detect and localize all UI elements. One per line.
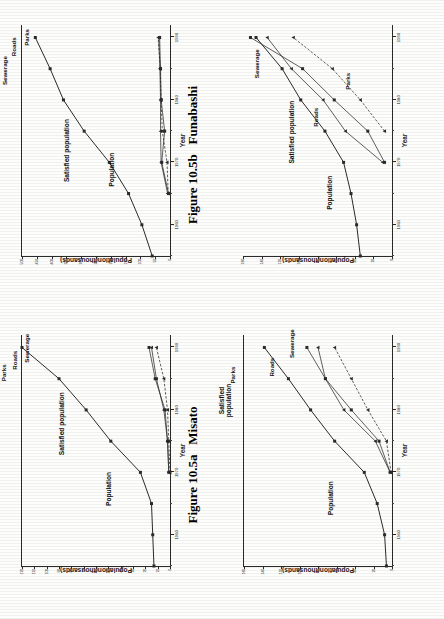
annotation-parks: Parks bbox=[344, 72, 351, 89]
series-line-parks bbox=[307, 347, 390, 472]
y-tick-label: 40 bbox=[353, 566, 357, 573]
x-tick-label: 1960 bbox=[392, 530, 401, 539]
figure-tama: Population(thousands) Year Population Sa… bbox=[222, 310, 444, 619]
y-tick-label: 0 bbox=[168, 566, 172, 571]
y-tick-label: 0 bbox=[168, 256, 172, 261]
data-point-marker bbox=[265, 35, 268, 39]
data-point-marker bbox=[58, 377, 61, 380]
y-tick-label: 450 bbox=[35, 256, 39, 264]
x-tick-minor bbox=[392, 67, 394, 68]
y-tick-label: 50 bbox=[106, 566, 110, 573]
x-tick-minor bbox=[170, 130, 172, 131]
y-tick-label: 60 bbox=[334, 256, 338, 263]
figure-funabashi: Population(thousands) Year Population Sa… bbox=[0, 0, 222, 309]
plot-area-tsukuba: Population(thousands) Year Population Sa… bbox=[243, 25, 393, 257]
y-tick-label: 500 bbox=[20, 256, 24, 264]
series-line-population bbox=[22, 347, 154, 566]
annotation-satisfied-population: Satisfied population bbox=[288, 100, 295, 163]
caption-funabashi-wrap: Figure 10.5b Funabashi bbox=[176, 30, 210, 280]
y-tick-label: 70 bbox=[82, 566, 86, 573]
y-tick-label: 80 bbox=[316, 566, 320, 573]
y-tick-label: 90 bbox=[57, 566, 61, 573]
data-point-marker bbox=[156, 35, 159, 39]
series-line-population bbox=[256, 37, 360, 256]
x-tick-minor bbox=[170, 440, 172, 441]
data-point-marker bbox=[155, 345, 158, 349]
x-axis-label: Year bbox=[401, 443, 408, 457]
series-lines-tsukuba bbox=[243, 25, 392, 256]
series-lines-misato bbox=[22, 335, 170, 566]
y-tick-label: 150 bbox=[124, 256, 128, 264]
y-tick-label: 400 bbox=[50, 256, 54, 264]
data-point-marker bbox=[366, 129, 369, 132]
annotation-roads: Roads bbox=[11, 350, 18, 369]
caption-misato: Figure 10.5a Misato bbox=[185, 406, 201, 523]
annotation-parks: Parks bbox=[229, 366, 236, 383]
series-line-parks bbox=[250, 37, 384, 162]
x-tick-minor bbox=[170, 67, 172, 68]
series-line-roads bbox=[318, 347, 390, 472]
y-tick-label: 100 bbox=[297, 256, 301, 264]
annotation-satisfied-population: Satisfiedpopulation bbox=[219, 380, 232, 420]
annotation-sewerage: Sewerage bbox=[23, 333, 30, 362]
y-tick-label: 350 bbox=[64, 256, 68, 264]
y-tick-label: 250 bbox=[94, 256, 98, 264]
annotation-sewerage: Sewerage bbox=[253, 49, 260, 78]
annotation-satisfied-population: Satisfied population bbox=[58, 392, 65, 455]
caption-misato-wrap: Figure 10.5a Misato bbox=[176, 340, 210, 590]
y-tick-label: 30 bbox=[131, 566, 135, 573]
series-lines-tama bbox=[244, 335, 392, 566]
data-point-marker bbox=[255, 35, 258, 38]
data-point-marker bbox=[263, 345, 266, 348]
satisfied-line-2: population bbox=[225, 383, 232, 417]
x-tick-minor bbox=[170, 502, 172, 503]
series-line-parks bbox=[160, 37, 169, 193]
figure-misato: Population(thousands) Year Population Sa… bbox=[0, 310, 222, 619]
data-point-marker bbox=[305, 345, 308, 348]
x-tick-label: 1990 bbox=[392, 342, 401, 351]
y-tick-label: 10 bbox=[156, 566, 160, 573]
plot-area-funabashi: Population(thousands) Year Population Sa… bbox=[21, 25, 171, 257]
y-tick-label: 50 bbox=[153, 256, 157, 263]
y-tick-label: 120 bbox=[278, 256, 282, 264]
y-tick-label: 80 bbox=[316, 256, 320, 263]
series-lines-funabashi bbox=[22, 25, 170, 256]
x-tick-minor bbox=[170, 377, 172, 378]
data-point-marker bbox=[34, 35, 37, 38]
x-tick-minor bbox=[392, 255, 394, 256]
annotation-parks: Parks bbox=[23, 28, 30, 45]
y-tick-label: 20 bbox=[143, 566, 147, 573]
x-tick-minor bbox=[392, 440, 394, 441]
x-tick-minor bbox=[392, 192, 394, 193]
y-tick-label: 80 bbox=[69, 566, 73, 573]
x-tick-minor bbox=[170, 192, 172, 193]
x-tick-label: 1960 bbox=[392, 220, 401, 229]
data-point-marker bbox=[249, 35, 252, 38]
y-tick-label: 160 bbox=[242, 566, 246, 574]
y-tick-label: 120 bbox=[20, 566, 24, 574]
y-tick-label: 20 bbox=[372, 566, 376, 573]
series-line-roads bbox=[267, 37, 382, 162]
annotation-parks: Parks bbox=[0, 364, 7, 381]
x-tick-minor bbox=[392, 502, 394, 503]
y-tick-label: 100 bbox=[45, 566, 49, 574]
data-point-marker bbox=[333, 345, 336, 349]
x-tick-minor bbox=[392, 377, 394, 378]
data-point-marker bbox=[291, 35, 294, 39]
x-tick-minor bbox=[392, 565, 394, 566]
data-point-marker bbox=[349, 376, 352, 380]
annotation-population: Population bbox=[327, 481, 334, 515]
x-tick-label: 1980 bbox=[392, 95, 401, 104]
data-point-marker bbox=[366, 408, 369, 412]
y-tick-label: 20 bbox=[371, 256, 375, 263]
annotation-roads: Roads bbox=[312, 107, 319, 126]
data-point-marker bbox=[301, 67, 304, 70]
y-tick-label: 40 bbox=[353, 256, 357, 263]
y-tick-label: 60 bbox=[94, 566, 98, 573]
annotation-population: Population bbox=[105, 471, 112, 505]
x-axis-label: Year bbox=[401, 133, 408, 147]
annotation-population: Population bbox=[108, 152, 115, 186]
y-tick-label: 300 bbox=[79, 256, 83, 264]
y-tick-label: 200 bbox=[109, 256, 113, 264]
figure-tsukuba: Population(thousands) Year Population Sa… bbox=[222, 0, 444, 309]
